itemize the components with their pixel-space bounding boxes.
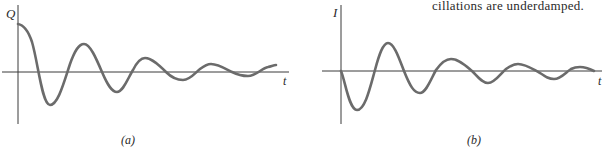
panel-a-y-label: Q: [6, 7, 15, 20]
panel-b-caption: (b): [467, 134, 481, 146]
figure-canvas: [0, 0, 602, 151]
panel-b-y-label: I: [333, 6, 337, 19]
panel-a-caption: (a): [121, 134, 135, 146]
panel-b-plot: [322, 5, 602, 124]
panel-b-damped-curve: [341, 43, 594, 110]
panel-a-damped-curve: [18, 24, 276, 105]
panel-b-x-label: t: [598, 75, 601, 87]
panel-a-plot: [2, 5, 289, 124]
panel-a-caption-text: (a): [121, 133, 135, 147]
panel-b-caption-text: (b): [467, 133, 481, 147]
panel-a-x-label: t: [283, 75, 286, 87]
